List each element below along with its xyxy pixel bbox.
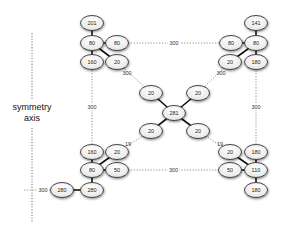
node-label: 80 xyxy=(89,167,95,173)
node-label: 20 xyxy=(195,128,201,134)
node-label: 141 xyxy=(251,20,260,26)
node-br_hub: 110 xyxy=(245,163,268,178)
node-c_ul: 20 xyxy=(140,86,163,101)
node-bl_right: 50 xyxy=(106,163,129,178)
node-bl_bottom: 280 xyxy=(81,183,104,198)
node-tl_top: 201 xyxy=(81,16,104,31)
node-br_top: 180 xyxy=(245,145,268,160)
axis-label-line2: axis xyxy=(24,113,41,123)
node-bl_top: 160 xyxy=(81,145,104,160)
node-label: 20 xyxy=(114,59,120,65)
node-label: 80 xyxy=(228,40,234,46)
node-label: 280 xyxy=(87,187,96,193)
edge-weight-label: 19 xyxy=(125,141,131,147)
axis-label-line1: symmetry xyxy=(13,102,52,112)
node-tl_bottom: 160 xyxy=(81,55,104,70)
node-c_ll: 20 xyxy=(140,124,163,139)
node-bl_left: 280 xyxy=(51,183,74,198)
edge-weight-label: 300 xyxy=(169,167,178,173)
node-label: 180 xyxy=(251,59,260,65)
node-tr_left: 80 xyxy=(220,36,243,51)
node-label: 20 xyxy=(114,149,120,155)
node-label: 20 xyxy=(227,149,233,155)
node-br_diag: 20 xyxy=(219,145,242,160)
edge-weight-label: 19 xyxy=(217,141,223,147)
node-tr_hub: 80 xyxy=(245,36,268,51)
node-label: 160 xyxy=(87,149,96,155)
node-c_ur: 20 xyxy=(187,86,210,101)
edge-weight-label: 300 xyxy=(122,70,131,76)
node-label: 110 xyxy=(252,167,261,173)
node-label: 80 xyxy=(89,40,95,46)
node-label: 281 xyxy=(169,110,178,116)
node-label: 80 xyxy=(114,40,120,46)
node-tl_diag: 20 xyxy=(106,55,129,70)
node-label: 20 xyxy=(148,90,154,96)
node-label: 180 xyxy=(251,187,260,193)
node-label: 160 xyxy=(87,59,96,65)
node-br_bottom: 180 xyxy=(245,183,268,198)
symmetry-diagram: 300 3003003003003003001919 2018080160201… xyxy=(0,0,282,232)
edge-weight-label: 300 xyxy=(87,104,96,110)
edge-weight-label: 300 xyxy=(251,104,260,110)
node-label: 20 xyxy=(195,90,201,96)
node-label: 80 xyxy=(253,40,259,46)
node-tr_diag: 20 xyxy=(219,55,242,70)
edge-weight-label: 300 xyxy=(169,40,178,46)
node-tr_bottom: 180 xyxy=(245,55,268,70)
node-br_left: 50 xyxy=(219,163,242,178)
node-tl_right: 80 xyxy=(106,36,129,51)
node-tr_top: 141 xyxy=(245,16,268,31)
node-bl_diag: 20 xyxy=(106,145,129,160)
node-tl_hub: 80 xyxy=(81,36,104,51)
node-label: 20 xyxy=(148,128,154,134)
axis-link-label: 300 xyxy=(38,187,47,193)
node-label: 201 xyxy=(87,20,96,26)
node-label: 280 xyxy=(57,187,66,193)
symmetry-axis: 300 xyxy=(24,33,50,222)
node-c_hub: 281 xyxy=(163,106,186,121)
node-label: 50 xyxy=(114,167,120,173)
node-c_lr: 20 xyxy=(187,124,210,139)
node-label: 20 xyxy=(227,59,233,65)
node-label: 50 xyxy=(227,167,233,173)
node-label: 180 xyxy=(251,149,260,155)
edge-weight-label: 300 xyxy=(216,70,225,76)
node-bl_hub: 80 xyxy=(81,163,104,178)
